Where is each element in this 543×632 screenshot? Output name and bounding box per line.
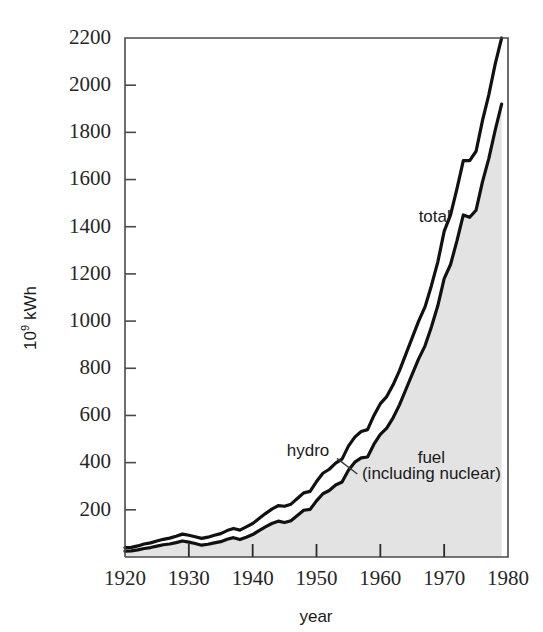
y-tick-label-2200: 2200 — [69, 25, 111, 49]
x-tick-label-1980: 1980 — [487, 566, 529, 590]
y-axis-title: 109 kWh — [19, 286, 40, 350]
y-tick-label-2000: 2000 — [69, 72, 111, 96]
annotation-hydro: hydro — [287, 441, 330, 460]
x-tick-label-1960: 1960 — [359, 566, 401, 590]
y-axis-title-unit: kWh — [21, 286, 40, 325]
x-tick-label-1930: 1930 — [168, 566, 210, 590]
x-tick-label-1970: 1970 — [423, 566, 465, 590]
y-axis-ticks: 2004006008001000120014001600180020002200 — [69, 25, 136, 521]
y-tick-label-1600: 1600 — [69, 166, 111, 190]
y-tick-label-1400: 1400 — [69, 214, 111, 238]
annotation-total: total — [419, 207, 451, 226]
annotation-fuel-line2: (including nuclear) — [362, 464, 501, 483]
x-tick-label-1950: 1950 — [296, 566, 338, 590]
y-tick-label-1000: 1000 — [69, 308, 111, 332]
y-tick-label-200: 200 — [80, 497, 112, 521]
y-tick-label-1800: 1800 — [69, 119, 111, 143]
chart-figure: 2004006008001000120014001600180020002200… — [0, 0, 543, 632]
y-tick-label-1200: 1200 — [69, 261, 111, 285]
energy-production-area-chart: 2004006008001000120014001600180020002200… — [0, 0, 543, 632]
y-axis-title-base: 10 — [21, 331, 40, 350]
x-tick-label-1920: 1920 — [104, 566, 146, 590]
x-tick-label-1940: 1940 — [232, 566, 274, 590]
y-tick-label-800: 800 — [80, 355, 112, 379]
y-tick-label-600: 600 — [80, 402, 112, 426]
x-axis-title: year — [299, 607, 332, 626]
svg-text:109 kWh: 109 kWh — [19, 286, 40, 350]
y-tick-label-400: 400 — [80, 449, 112, 473]
